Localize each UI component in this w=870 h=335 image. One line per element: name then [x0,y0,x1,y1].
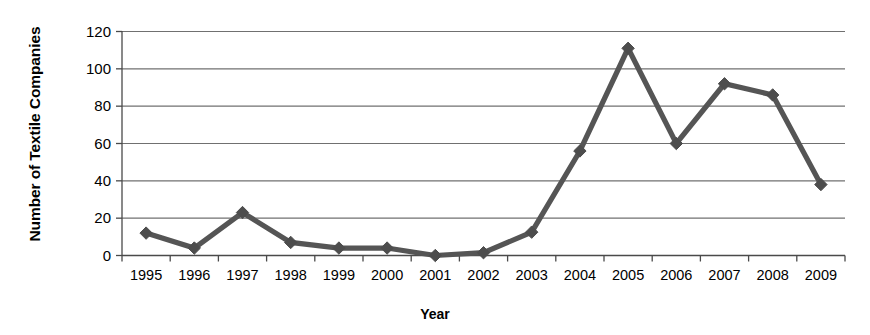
y-tick-label: 100 [86,60,111,77]
x-tick-label: 2007 [700,267,748,283]
y-tick-label: 40 [94,172,111,189]
y-tick-label: 20 [94,209,111,226]
x-axis-title: Year [0,306,870,322]
x-tick-label: 2006 [652,267,700,283]
x-tick-label: 2000 [363,267,411,283]
x-tick-label: 2002 [459,267,507,283]
y-tick-label: 120 [86,23,111,40]
x-tick-label: 1995 [122,267,170,283]
x-tick-label: 1998 [267,267,315,283]
x-tick-label: 2003 [508,267,556,283]
data-point-marker [381,242,393,254]
y-tick-label: 60 [94,135,111,152]
x-tick-label: 2004 [556,267,604,283]
x-tick-label: 2008 [749,267,797,283]
line-chart: Number of Textile Companies 020406080100… [0,0,870,335]
x-tick-label: 1997 [218,267,266,283]
data-line-series [146,48,821,255]
data-point-marker [140,227,152,239]
y-tick-label: 0 [103,247,111,264]
x-tick-label: 1996 [170,267,218,283]
x-tick-label: 2005 [604,267,652,283]
data-point-marker [333,242,345,254]
series-line [146,48,821,255]
x-tick-label: 2009 [797,267,845,283]
y-axis-ticks [116,32,122,256]
data-point-markers [140,42,827,262]
y-tick-label: 80 [94,97,111,114]
x-tick-label: 1999 [315,267,363,283]
data-point-marker [429,249,441,261]
plot-area [0,0,870,335]
x-tick-label: 2001 [411,267,459,283]
